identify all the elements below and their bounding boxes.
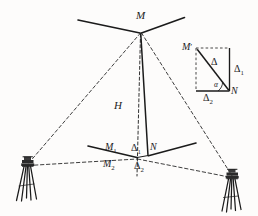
figure-canvas: [0, 0, 258, 216]
base-lines-group: [29, 159, 232, 178]
label-inset-delta: Δ: [211, 57, 217, 67]
right-instrument-head: [227, 173, 239, 176]
label-base-n: N: [150, 142, 157, 152]
label-apex-m: M: [136, 10, 145, 21]
base-line-base-to-right: [138, 159, 232, 178]
left-instrument-base: [21, 163, 34, 166]
label-delta1-vertical: Δ1: [131, 143, 141, 153]
label-inset-alpha: α: [214, 81, 218, 89]
right-instrument-base: [226, 176, 239, 179]
apex-ridge-right: [142, 18, 185, 34]
inset-angle-arc: [218, 82, 223, 91]
left-instrument-head: [22, 160, 34, 163]
inset-triangle-group: [196, 48, 230, 91]
delta1-connector: [137, 156, 148, 158]
sight-line-right-to-apex: [142, 33, 233, 177]
apex-ridge-left: [78, 20, 140, 33]
right-tripod-legs: [222, 179, 241, 212]
label-base-m2: M2: [103, 159, 115, 169]
label-inset-delta1: Δ1: [234, 64, 244, 74]
label-inset-delta2: Δ2: [203, 93, 213, 103]
apex-ridge-lines: [78, 18, 185, 34]
label-height-h: H: [114, 100, 122, 111]
surveying-figure: M H M1 M2 N Δ1 Δ2 M′ N Δ Δ1 Δ2 α: [0, 0, 258, 216]
left-instrument-icon: [17, 157, 37, 201]
label-delta2-horizontal: Δ2: [134, 161, 144, 171]
label-base-m1: M1: [105, 142, 117, 152]
right-instrument-icon: [222, 169, 241, 212]
label-inset-m-prime: M′: [182, 42, 192, 52]
label-inset-n: N: [231, 86, 238, 96]
sight-line-left-to-apex: [28, 33, 141, 165]
tilt-line-apex-to-n: [141, 34, 148, 156]
base-line-left-to-base: [29, 159, 138, 166]
